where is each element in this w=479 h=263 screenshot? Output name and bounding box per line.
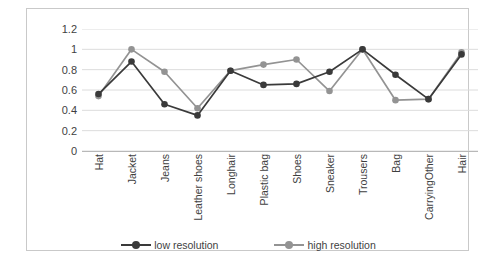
data-point: low resolution — Hair: 0.95 <box>458 51 465 58</box>
legend-dot-icon <box>132 241 140 249</box>
plot-area: high resolution — Hat: 0.54high resoluti… <box>82 29 478 151</box>
x-axis-tick: Hat <box>92 152 106 234</box>
data-point: high resolution — Shoes: 0.9 <box>293 56 300 63</box>
y-axis-tick-label: 0.4 <box>47 105 77 116</box>
data-point: high resolution — Plastic bag: 0.85 <box>260 61 267 68</box>
data-point: low resolution — Trousers: 1 <box>359 46 366 53</box>
x-axis-tick-label: Hair <box>455 154 469 173</box>
data-point: low resolution — Plastic bag: 0.65 <box>260 82 267 89</box>
x-axis-tick: Jeans <box>158 152 172 234</box>
x-axis-tick-label: Jeans <box>158 154 172 182</box>
legend-item: high resolution <box>274 239 375 251</box>
x-axis-tick-label: Shoes <box>290 154 304 184</box>
data-point: low resolution — Sneaker: 0.78 <box>326 68 333 75</box>
data-point: low resolution — Shoes: 0.66 <box>293 81 300 88</box>
data-point: high resolution — Leather shoes: 0.42 <box>194 105 201 112</box>
chart-legend: low resolutionhigh resolution <box>27 237 470 253</box>
data-point: high resolution — Jeans: 0.78 <box>161 68 168 75</box>
y-axis-tick-label: 0.6 <box>47 85 77 96</box>
x-axis-tick-label: Longhair <box>224 154 238 195</box>
legend-marker-icon <box>121 240 151 250</box>
x-axis-tick: CarryingOther <box>422 152 436 234</box>
x-axis-tick: Trousers <box>356 152 370 234</box>
data-point: low resolution — Hat: 0.56 <box>95 91 102 98</box>
x-axis-tick-label: Plastic bag <box>257 154 271 205</box>
data-point: high resolution — Jacket: 1 <box>128 46 135 53</box>
x-axis-tick: Plastic bag <box>257 152 271 234</box>
x-axis-tick-label: Bag <box>389 154 403 173</box>
line-chart-svg: high resolution — Hat: 0.54high resoluti… <box>82 29 478 151</box>
legend-label: high resolution <box>307 239 375 251</box>
series-line-low-resolution <box>99 49 462 115</box>
y-axis-tick-label: 1.2 <box>47 24 77 35</box>
legend-marker-icon <box>274 240 304 250</box>
x-axis-tick: Sneaker <box>323 152 337 234</box>
y-axis-tick-label: 0 <box>47 146 77 157</box>
legend-dot-icon <box>285 241 293 249</box>
data-point: low resolution — Leather shoes: 0.35 <box>194 112 201 119</box>
data-point: high resolution — Bag: 0.5 <box>392 97 399 104</box>
x-axis-tick-label: CarryingOther <box>422 154 436 220</box>
data-point: high resolution — Sneaker: 0.59 <box>326 88 333 95</box>
x-axis-tick-label: Hat <box>92 154 106 170</box>
data-point: low resolution — Bag: 0.75 <box>392 71 399 78</box>
y-axis-tick-label: 1 <box>47 44 77 55</box>
chart-screenshot: 1.210.80.60.40.20 high resolution — Hat:… <box>0 0 479 263</box>
data-point: low resolution — Longhair: 0.79 <box>227 67 234 74</box>
x-axis-tick: Longhair <box>224 152 238 234</box>
legend-item: low resolution <box>121 239 218 251</box>
x-axis-tick-label: Sneaker <box>323 154 337 193</box>
data-point: low resolution — CarryingOther: 0.51 <box>425 96 432 103</box>
x-axis-tick: Jacket <box>125 152 139 234</box>
chart-frame: 1.210.80.60.40.20 high resolution — Hat:… <box>26 8 469 251</box>
x-axis-tick: Leather shoes <box>191 152 205 234</box>
x-axis: HatJacketJeansLeather shoesLonghairPlast… <box>82 152 478 234</box>
x-axis-tick: Shoes <box>290 152 304 234</box>
legend-label: low resolution <box>154 239 218 251</box>
data-point: low resolution — Jacket: 0.88 <box>128 58 135 65</box>
y-axis-tick-label: 0.2 <box>47 125 77 136</box>
y-axis: 1.210.80.60.40.20 <box>43 29 77 151</box>
x-axis-tick-label: Leather shoes <box>191 154 205 221</box>
series-line-high-resolution <box>99 49 462 108</box>
data-point: low resolution — Jeans: 0.46 <box>161 101 168 108</box>
x-axis-tick: Hair <box>455 152 469 234</box>
x-axis-tick-label: Jacket <box>125 154 139 184</box>
x-axis-tick: Bag <box>389 152 403 234</box>
x-axis-tick-label: Trousers <box>356 154 370 195</box>
y-axis-tick-label: 0.8 <box>47 64 77 75</box>
